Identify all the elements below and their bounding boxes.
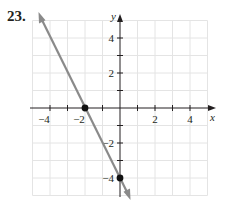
y-axis-arrow-icon <box>117 14 123 22</box>
x-tick-label: −2 <box>73 113 85 125</box>
y-tick-label: 4 <box>109 32 115 44</box>
y-tick-label: −4 <box>102 172 114 184</box>
x-tick-label: 4 <box>187 113 193 125</box>
y-tick-label: 2 <box>109 67 115 79</box>
x-tick-label: −4 <box>38 113 50 125</box>
y-axis-label: y <box>110 10 116 22</box>
coordinate-plot: −4 −2 2 4 4 2 −2 −4 x y <box>0 0 228 214</box>
y-intercept-point <box>117 175 124 182</box>
x-intercept-point <box>82 105 89 112</box>
axes <box>30 17 213 197</box>
x-tick-label: 2 <box>152 113 158 125</box>
x-axis-label: x <box>209 111 215 123</box>
line-arrow-bottom-icon <box>124 189 131 201</box>
line-arrow-top-icon <box>39 12 46 24</box>
